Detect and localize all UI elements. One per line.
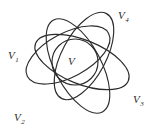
label-v2-subscript: 2 [21, 118, 25, 126]
central-circle-shape [52, 39, 98, 85]
label-v1-base: V [8, 49, 15, 61]
label-v2-base: V [14, 111, 21, 123]
label-v: V [68, 56, 75, 67]
label-v-base: V [68, 55, 75, 67]
label-v4-base: V [118, 9, 125, 21]
label-v3: V3 [133, 94, 143, 105]
label-v3-base: V [133, 93, 140, 105]
label-v2: V2 [14, 112, 24, 123]
label-v1: V1 [8, 50, 18, 61]
label-v4: V4 [118, 10, 128, 21]
ellipse-venn-diagram: V V1 V2 V3 V4 [0, 0, 156, 134]
ellipse-v3-shape [27, 23, 136, 101]
label-v1-subscript: 1 [15, 56, 19, 64]
label-v4-subscript: 4 [125, 16, 129, 24]
label-v3-subscript: 3 [140, 100, 144, 108]
